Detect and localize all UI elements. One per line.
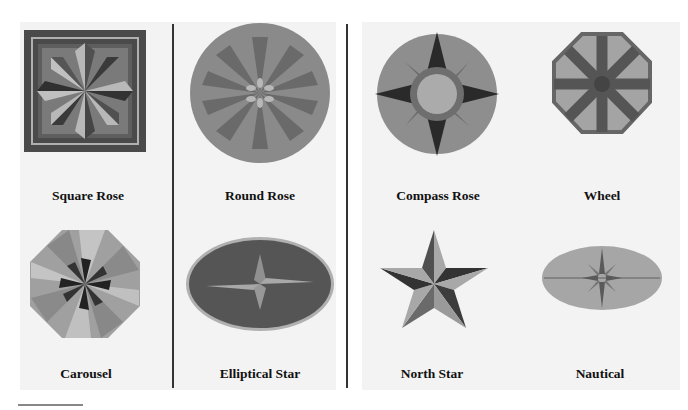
panel-right: Compass Rose Wheel	[362, 22, 680, 390]
item-wheel: Wheel	[522, 22, 674, 206]
wheel-icon	[522, 22, 682, 172]
item-label: Compass Rose	[362, 188, 514, 204]
footer-rule	[18, 404, 83, 406]
round-rose-icon	[180, 22, 340, 172]
square-rose-icon	[20, 22, 172, 172]
item-nautical: Nautical	[522, 206, 674, 390]
item-elliptical-star: Elliptical Star	[180, 206, 332, 390]
item-north-star: North Star	[362, 206, 514, 390]
divider	[346, 24, 348, 388]
compass-rose-icon	[362, 22, 522, 172]
item-round-rose: Round Rose	[180, 22, 332, 206]
item-label: Carousel	[10, 366, 162, 382]
north-star-icon	[362, 206, 522, 356]
elliptical-star-icon	[180, 206, 340, 356]
item-label: Nautical	[524, 366, 676, 382]
item-square-rose: Square Rose	[20, 22, 172, 206]
carousel-icon	[20, 206, 172, 356]
divider	[172, 24, 174, 388]
item-compass-rose: Compass Rose	[362, 22, 514, 206]
nautical-icon	[522, 206, 682, 356]
item-label: Wheel	[526, 188, 678, 204]
item-label: Round Rose	[184, 188, 336, 204]
item-carousel: Carousel	[20, 206, 172, 390]
panel-left: Square Rose	[20, 22, 336, 390]
item-label: Square Rose	[12, 188, 164, 204]
item-label: North Star	[356, 366, 508, 382]
item-label: Elliptical Star	[184, 366, 336, 382]
